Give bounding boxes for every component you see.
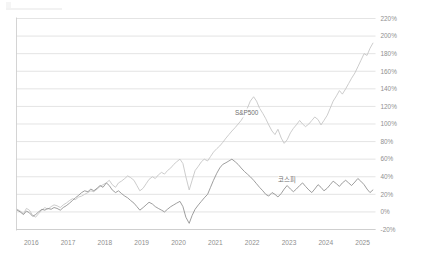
series-line-sp500	[17, 43, 373, 217]
series-label-sp500: S&P500	[235, 109, 259, 116]
y-axis-tick-label: 20%	[381, 191, 394, 198]
x-axis-tick-label: 2024	[318, 239, 333, 246]
x-axis-tick-label: 2021	[208, 239, 223, 246]
chart-container: 220%200%180%160%140%120%100%80%60%40%20%…	[0, 0, 426, 259]
series-line-kospi	[17, 159, 373, 223]
x-axis-tick-label: 2017	[61, 239, 76, 246]
y-axis-tick-label: 220%	[381, 15, 398, 22]
watermark-bar	[6, 8, 62, 10]
y-axis-tick-label: 180%	[381, 50, 398, 57]
y-axis-tick-label: -20%	[381, 226, 396, 233]
y-axis-tick-label: 140%	[381, 85, 398, 92]
watermark-mark	[6, 2, 66, 12]
x-axis-tick-label: 2023	[282, 239, 297, 246]
y-axis-tick-label: 80%	[381, 138, 394, 145]
y-axis-tick-label: 160%	[381, 68, 398, 75]
y-axis-tick-label: 120%	[381, 103, 398, 110]
series-annotations-group: S&P500코스피	[234, 108, 297, 184]
y-axis-tick-label: 60%	[381, 155, 394, 162]
y-axis-tick-label: 40%	[381, 173, 394, 180]
y-axis-tick-label: 200%	[381, 32, 398, 39]
x-axis-tick-label: 2018	[98, 239, 113, 246]
y-axis-tick-labels: 220%200%180%160%140%120%100%80%60%40%20%…	[381, 15, 398, 233]
x-axis-tick-label: 2025	[355, 239, 370, 246]
x-axis-tick-labels: 2016201720182019202020212022202320242025	[24, 239, 370, 246]
data-series-group	[17, 43, 373, 223]
y-axis-tick-label: 0%	[381, 208, 391, 215]
series-label-kospi: 코스피	[278, 175, 296, 184]
x-axis-tick-label: 2016	[24, 239, 39, 246]
x-axis-tick-label: 2020	[171, 239, 186, 246]
x-axis-tick-label: 2022	[245, 239, 260, 246]
x-axis-tick-label: 2019	[134, 239, 149, 246]
y-axis-tick-label: 100%	[381, 120, 398, 127]
line-chart: 220%200%180%160%140%120%100%80%60%40%20%…	[0, 0, 426, 259]
